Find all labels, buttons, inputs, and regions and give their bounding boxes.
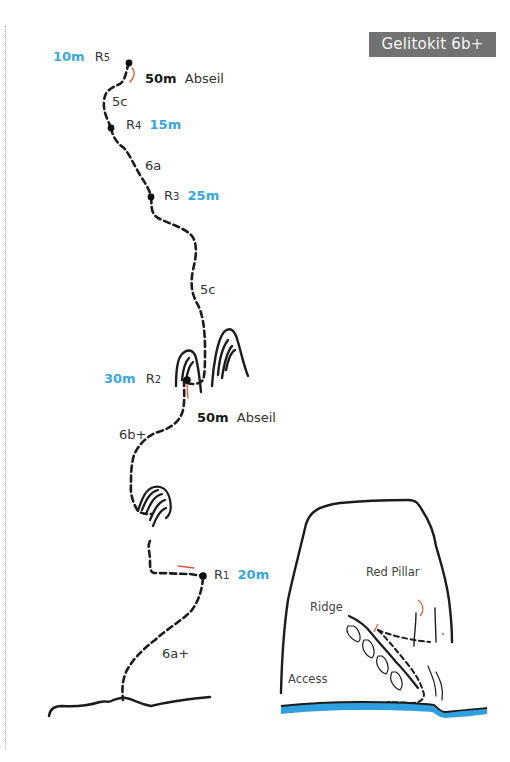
abseil-label-top: 50m Abseil [145,71,224,86]
route-line-pitch-1 [122,578,203,700]
overview-label-ridge: Ridge [310,600,343,615]
belay-label-r2: 30m R2 [104,371,161,387]
belay-name: R4 [126,117,141,132]
abseil-text: Abseil [237,410,276,425]
belay-label-r1: R1 20m [214,567,269,583]
abseil-arrow-r5 [130,68,134,82]
ground-line [49,697,210,716]
pitch-grade-3: 5c [200,282,215,297]
route-line-pitch-3 [151,197,205,384]
belay-length: 15m [150,117,182,132]
belay-dot-r3 [148,194,155,201]
pitch-grade-2: 6b+ [119,427,146,442]
belay-name: R1 [214,567,229,582]
route-topo-drawing [0,0,510,762]
pitch-grade-1: 6a+ [162,646,189,661]
belay-dot-r1 [199,572,207,580]
route-line-pitch-2 [131,380,184,514]
red-pillar-arrow [418,600,423,616]
belay-length: 25m [188,188,220,203]
abseil-length: 50m [197,410,229,425]
access-cracks [428,666,443,700]
belay-label-r5: 10m R5 [53,49,110,65]
belay-label-r3: R3 25m [164,188,219,204]
pitch-grade-5: 5c [112,94,127,109]
abseil-arrow-r2 [187,385,188,398]
belay-dot-r5 [126,60,133,67]
belay-name: R5 [95,49,110,64]
approach-dashed-1 [378,630,430,642]
route-line-pitch-1-upper [149,541,203,576]
pitch-grade-4: 6a [145,158,161,173]
red-pillar-cracks [414,608,436,646]
abseil-label-r2: 50m Abseil [197,410,276,425]
belay-label-r4: R4 15m [126,117,181,133]
abseil-text: Abseil [185,71,224,86]
crag-outline [281,500,452,693]
belay-length: 30m [104,371,136,386]
abseil-length: 50m [145,71,177,86]
belay-name: R3 [164,188,179,203]
rock-pillar-right [212,329,248,386]
ridge-line [349,616,418,688]
overview-label-access: Access [288,672,327,687]
traverse-arrow-r1 [178,566,194,568]
rock-pillar-lower [138,487,171,526]
belay-length: 20m [238,567,270,582]
belay-length: 10m [53,49,85,64]
overview-label-red-pillar: Red Pillar [366,565,420,580]
belay-name: R2 [146,371,161,386]
belay-dot-r4 [108,125,115,132]
rock-pillar-left [176,351,201,392]
belay-dot-r2 [183,376,191,384]
red-pillar-dot [442,633,444,635]
